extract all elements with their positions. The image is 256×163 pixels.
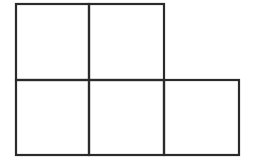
square-r2-c1	[16, 80, 89, 155]
square-r2-c2	[89, 80, 164, 155]
square-r1-c2	[89, 4, 164, 80]
square-r1-c1	[16, 4, 89, 80]
square-r2-c3	[164, 80, 239, 155]
square-grid-diagram	[0, 0, 256, 163]
